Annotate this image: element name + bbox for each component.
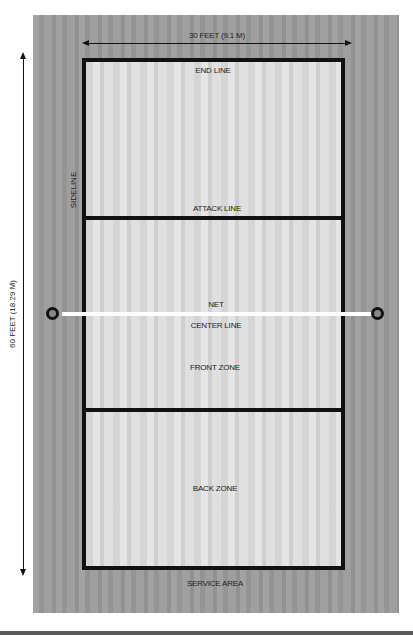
front-zone-label: FRONT ZONE xyxy=(190,363,240,372)
attack-line-label: ATTACK LINE xyxy=(193,204,241,213)
bottom-bar xyxy=(0,631,413,635)
attack-line-top xyxy=(82,216,345,220)
net-post-right-icon xyxy=(371,307,384,320)
net xyxy=(62,312,372,316)
center-line-label: CENTER LINE xyxy=(191,321,242,330)
sideline-label: SIDELINE xyxy=(69,172,78,208)
back-zone-label: BACK ZONE xyxy=(193,484,237,493)
width-dimension-label: 30 FEET (9.1 M) xyxy=(189,31,245,40)
net-label: NET xyxy=(208,300,223,309)
attack-line-bottom xyxy=(82,408,345,412)
net-post-left-icon xyxy=(46,307,59,320)
width-dimension-arrow xyxy=(86,43,348,44)
length-dimension-arrow xyxy=(23,58,24,570)
service-area-label: SERVICE AREA xyxy=(187,579,243,588)
end-line-label: END LINE xyxy=(195,66,230,75)
length-dimension-label: 60 FEET (18.29 M) xyxy=(8,280,17,348)
